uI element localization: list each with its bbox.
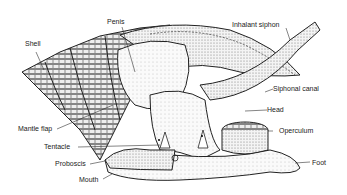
label-foot: Foot (312, 159, 326, 167)
label-operculum: Operculum (279, 127, 313, 135)
snail-anatomy-drawing (0, 0, 347, 195)
proboscis-shape (105, 149, 175, 170)
label-shell: Shell (25, 40, 41, 48)
label-penis: Penis (107, 18, 125, 26)
label-siphonal-canal: Siphonal canal (273, 85, 319, 93)
label-proboscis: Proboscis (55, 160, 86, 168)
label-mantle-flap: Mantle flap (18, 125, 52, 133)
label-head: Head (267, 106, 284, 114)
label-inhalant-siphon: Inhalant siphon (232, 21, 279, 29)
label-tentacle: Tentacle (44, 143, 70, 151)
label-mouth: Mouth (79, 176, 98, 184)
